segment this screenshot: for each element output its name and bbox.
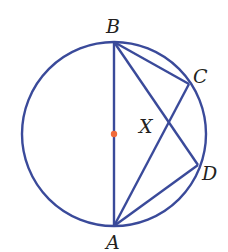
- label-x: X: [137, 115, 154, 137]
- segment-ac: [114, 84, 189, 226]
- label-b: B: [105, 15, 120, 37]
- label-d: D: [201, 162, 217, 184]
- center-dot: [111, 131, 117, 137]
- circle-diagram: B C X D A: [0, 0, 228, 252]
- label-a: A: [104, 231, 120, 252]
- label-c: C: [193, 65, 208, 87]
- segment-bc: [114, 42, 189, 84]
